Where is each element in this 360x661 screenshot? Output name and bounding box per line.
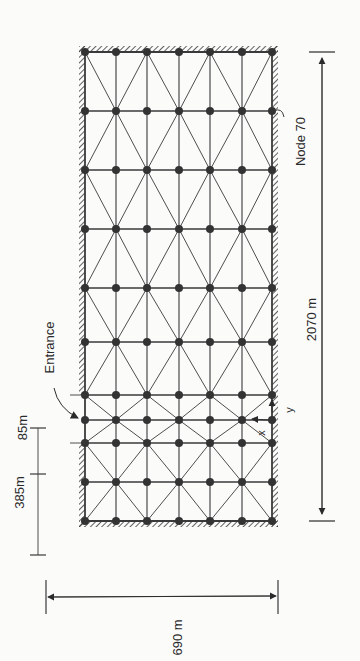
dimension-lines: [30, 52, 335, 614]
length-2070-label: 2070 m: [304, 298, 319, 341]
axis-y-label: y: [283, 407, 295, 413]
entrance-label: Entrance: [42, 321, 57, 373]
axis-x-label: x: [255, 430, 267, 436]
width-690-label: 690 m: [170, 619, 185, 655]
dim-385m-label: 385m: [12, 476, 27, 509]
dim-85m-label: 85m: [15, 415, 30, 440]
node-70-label: Node 70: [293, 117, 308, 166]
